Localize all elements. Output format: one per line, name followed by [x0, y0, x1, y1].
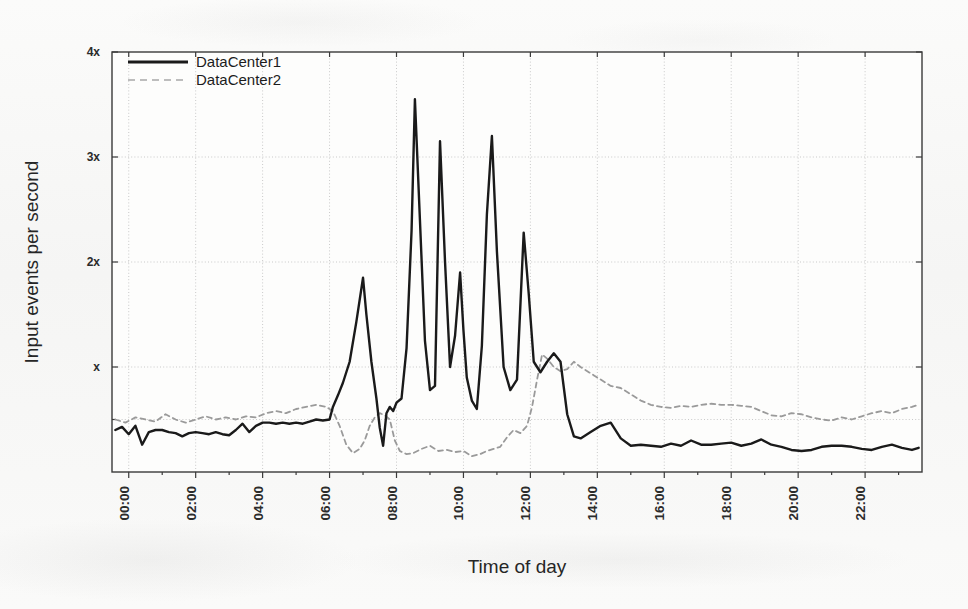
y-tick-label: 4x [87, 45, 101, 59]
line-chart: 00:0002:0004:0006:0008:0010:0012:0014:00… [0, 0, 968, 609]
y-axis-title: Input events per second [21, 161, 42, 364]
x-tick-label: 14:00 [585, 486, 600, 521]
x-tick-label: 02:00 [184, 486, 199, 521]
x-tick-label: 16:00 [652, 486, 667, 521]
x-axis-title: Time of day [468, 556, 567, 577]
x-tick-label: 20:00 [786, 486, 801, 521]
legend-label-datacenter2: DataCenter2 [196, 71, 281, 88]
x-tick-label: 10:00 [451, 486, 466, 521]
x-tick-label: 04:00 [251, 486, 266, 521]
x-tick-label: 00:00 [117, 486, 132, 521]
x-tick-label: 08:00 [385, 486, 400, 521]
x-tick-label: 06:00 [318, 486, 333, 521]
x-tick-label: 22:00 [853, 486, 868, 521]
y-tick-label: x [93, 360, 100, 374]
chart-figure: 00:0002:0004:0006:0008:0010:0012:0014:00… [0, 0, 968, 609]
y-axis-tick-labels: x2x3x4x [87, 45, 101, 374]
y-tick-label: 2x [87, 255, 101, 269]
x-tick-label: 12:00 [518, 486, 533, 521]
x-axis-tick-labels: 00:0002:0004:0006:0008:0010:0012:0014:00… [117, 486, 868, 521]
legend-label-datacenter1: DataCenter1 [196, 53, 281, 70]
y-tick-label: 3x [87, 150, 101, 164]
x-tick-label: 18:00 [719, 486, 734, 521]
